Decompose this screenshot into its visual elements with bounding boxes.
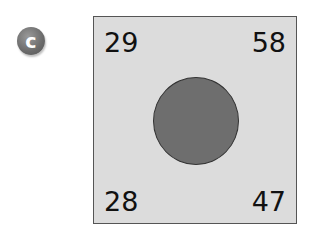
number-top-left: 29 bbox=[104, 29, 138, 56]
number-top-right: 58 bbox=[252, 29, 286, 56]
number-bottom-right: 47 bbox=[252, 188, 286, 215]
number-square: 29 58 28 47 bbox=[93, 16, 297, 224]
label-badge: c bbox=[17, 27, 45, 55]
center-circle bbox=[153, 77, 239, 165]
number-bottom-left: 28 bbox=[104, 188, 138, 215]
